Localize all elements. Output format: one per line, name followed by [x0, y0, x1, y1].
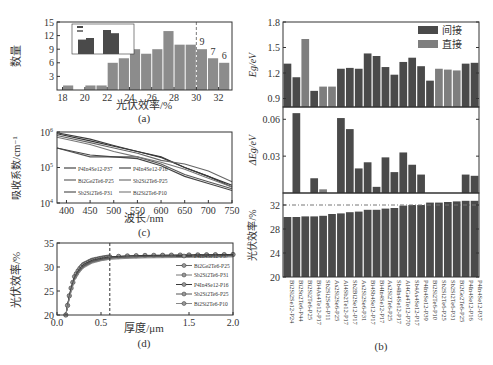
legend-marker	[182, 292, 186, 296]
bar-pce	[373, 210, 381, 277]
bar-pce	[328, 214, 336, 277]
bar-delta-eg	[373, 187, 381, 193]
y-tick-label: 24	[270, 248, 280, 259]
bar-eg	[328, 87, 336, 107]
legend-label: Sb2Si2Te6-P25	[194, 291, 229, 297]
bar-eg	[355, 69, 363, 107]
bar-pce	[310, 216, 318, 277]
bar-delta-eg	[408, 165, 416, 193]
bar-eg	[364, 53, 372, 107]
bar-eg	[337, 69, 345, 107]
bar-delta-eg	[337, 118, 345, 193]
category-label: Sb4In4Se12-P17	[396, 280, 403, 325]
histogram-bar	[152, 49, 162, 90]
bar-eg	[417, 66, 425, 107]
y-tick-label: 104	[40, 198, 53, 209]
legend-marker	[182, 283, 186, 287]
bar-eg	[391, 75, 399, 107]
bar-pce	[408, 205, 416, 277]
category-label: As2Si2Se6-P31	[361, 280, 368, 321]
y-tick-label: 0.06	[263, 114, 281, 125]
x-tick-label: 750	[225, 205, 240, 216]
bar-annotation: 6	[222, 50, 227, 61]
bar-pce	[355, 212, 363, 277]
bar-eg	[471, 63, 479, 107]
y-tick-label: 106	[40, 127, 53, 138]
legend-label: Sb2Si2Te6-P31	[78, 190, 113, 196]
bar-delta-eg	[399, 152, 407, 193]
xlabel-c: 波长/nm	[124, 212, 164, 224]
histogram-bar	[186, 45, 196, 90]
bar-delta-eg	[382, 157, 390, 193]
x-tick-label: 400	[59, 205, 74, 216]
y-tick-label: 35	[44, 238, 54, 249]
x-tick-label: 450	[83, 205, 98, 216]
category-label: Bi2Si2Te6-P10	[432, 280, 439, 320]
category-label: Al4Sb2Te12-P17	[343, 280, 350, 326]
y-tick-label: 28	[270, 224, 280, 235]
y-tick-label: 9	[49, 44, 54, 55]
legend-label: P4In4Se12-P37	[78, 166, 113, 172]
bar-delta-eg	[346, 129, 354, 193]
x-tick-label: 18	[58, 92, 68, 103]
histogram-bar	[197, 49, 207, 90]
bar-pce	[284, 217, 292, 277]
legend-label: Bi2Ge2Te6-P25	[194, 263, 230, 269]
bar-pce	[391, 208, 399, 277]
legend-label: Bi2Si2Te6-P10	[133, 190, 167, 196]
category-label: Sb4As4Se12-P17	[414, 280, 421, 327]
legend-marker	[182, 273, 186, 277]
category-label: P4In4Se12-P39	[423, 280, 430, 321]
bar-eg	[408, 58, 416, 107]
bar-pce	[346, 212, 354, 277]
bar-pce	[453, 201, 461, 277]
bar-annotation: 7	[211, 46, 216, 57]
bar-eg	[319, 87, 327, 107]
histogram-bar	[163, 31, 173, 90]
panel-d-thickness-chart: 0.00.51.52.020253035P4In4Se12-P37Bi2Ge2T…	[44, 238, 239, 329]
bar-pce	[293, 217, 301, 277]
bar-delta-eg	[471, 176, 479, 193]
y-tick-label: 30	[44, 262, 54, 273]
figure: 18202224262830323691215976 4004505005506…	[0, 0, 493, 365]
bar-eg	[293, 77, 301, 107]
category-label: P4In4Se12-P16	[468, 280, 475, 322]
bar-eg	[284, 64, 292, 107]
category-label: Bi2Sn2Te6-P44	[298, 280, 305, 322]
ylabel-b-eg: Eg/eV	[247, 51, 258, 78]
x-tick-label: 22	[102, 92, 112, 103]
bar-pce	[471, 201, 479, 277]
inset-chart	[72, 24, 134, 54]
category-label: Sb2Si2Se6-P11	[325, 280, 332, 321]
histogram-bar	[97, 85, 107, 90]
legend-marker	[182, 302, 186, 306]
histogram-bar	[208, 58, 218, 90]
bar-pce	[382, 209, 390, 277]
y-tick-label: 6	[49, 57, 54, 68]
x-tick-label: 1.5	[183, 317, 196, 328]
y-tick-label: 0.03	[263, 151, 281, 162]
legend-label: Sb2Si2Te6-P31	[194, 272, 229, 278]
bar-pce	[337, 213, 345, 277]
category-label: Bi4In4Se12-P17	[379, 280, 386, 324]
legend-label: P4In4Se12-P16	[194, 282, 229, 288]
bar-eg	[399, 62, 407, 107]
category-label: As2Si2Se6-P25	[334, 280, 341, 321]
category-label: Bi2Ge2Te6-P25	[459, 280, 466, 322]
bar-pce	[444, 202, 452, 277]
y-tick-label: 12	[44, 30, 54, 41]
x-tick-label: 650	[177, 205, 192, 216]
y-tick-label: 32	[270, 200, 280, 211]
histogram-bar	[219, 63, 229, 90]
y-tick-label: 1.2	[268, 68, 281, 79]
ylabel-b-deg: ΔEg/eV	[247, 133, 258, 166]
category-label: Sb2Bi2Se12-P17	[352, 280, 359, 326]
y-tick-label: 0.9	[268, 93, 281, 104]
category-label: Bi4As4Te12-P17	[316, 280, 323, 326]
caption-d: (d)	[138, 337, 151, 350]
bar-eg	[426, 81, 434, 107]
histogram-bar	[141, 54, 151, 90]
xlabel-d: 厚度/μm	[124, 321, 164, 334]
y-tick-label: 105	[40, 162, 53, 173]
bar-eg	[453, 70, 461, 107]
